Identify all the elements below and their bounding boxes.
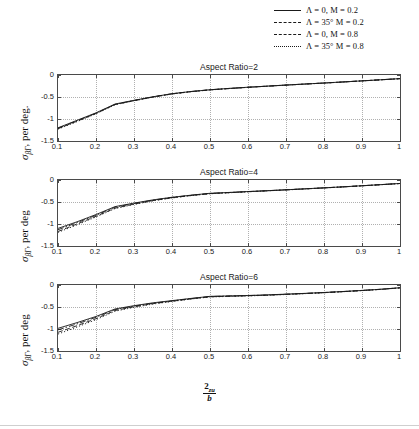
x-axis-label: 2zu b — [0, 382, 419, 403]
x-axis-tick-label: 1 — [397, 142, 401, 151]
x-axis-tick-label: 0.4 — [166, 247, 176, 256]
legend-line-sample-dashdot-icon — [272, 29, 302, 39]
legend-entry: Λ = 0, M = 0.2 — [272, 4, 417, 16]
x-axis-tick-label: 0.7 — [280, 142, 290, 151]
y-axis-tick-label: -0.5 — [24, 197, 54, 206]
legend-entry-label: Λ = 35° M = 0.8 — [302, 41, 364, 51]
x-axis-tick-label: 0.8 — [318, 247, 328, 256]
subplot-title: Aspect Ratio=4 — [57, 167, 401, 177]
x-axis-tick-label: 1 — [397, 247, 401, 256]
x-axis-tick-label: 1 — [397, 352, 401, 361]
x-axis-tick-label: 0.9 — [356, 142, 366, 151]
y-axis-tick-label: -1.5 — [24, 136, 54, 145]
y-axis-tick-label: 0 — [24, 175, 54, 184]
x-axis-tick — [400, 243, 401, 246]
x-axis-tick-top — [400, 180, 401, 183]
y-axis-tick-label: -1.5 — [24, 346, 54, 355]
data-series-line — [58, 183, 400, 228]
y-axis-tick-label: -0.5 — [24, 302, 54, 311]
x-axis-tick-label: 0.2 — [90, 142, 100, 151]
data-series-line — [58, 79, 400, 129]
subplot-title: Aspect Ratio=2 — [57, 62, 401, 72]
data-series-line — [58, 183, 400, 229]
x-axis-tick-label: 0.4 — [166, 142, 176, 151]
data-series-line — [58, 288, 400, 330]
x-axis-tick-label: 0.3 — [128, 142, 138, 151]
data-series-line — [58, 184, 400, 233]
data-series-line — [58, 288, 400, 329]
x-axis-tick-label: 0.9 — [356, 352, 366, 361]
y-axis-tick-label: -1 — [24, 324, 54, 333]
x-axis-tick-label: 0.9 — [356, 247, 366, 256]
x-axis-tick-label: 0.3 — [128, 352, 138, 361]
data-series-line — [58, 79, 400, 129]
y-axis-tick-label: -1 — [24, 219, 54, 228]
data-series-line — [58, 79, 400, 128]
legend-entry: Λ = 35° M = 0.2 — [272, 16, 417, 28]
figure-canvas: Λ = 0, M = 0.2 Λ = 35° M = 0.2 Λ = 0, M … — [0, 0, 419, 429]
grid-line-vertical — [400, 75, 401, 141]
x-axis-tick — [400, 348, 401, 351]
x-axis-tick-label: 0.5 — [204, 352, 214, 361]
y-axis-tick-label: -0.5 — [24, 92, 54, 101]
x-axis-tick-label: 0.6 — [242, 352, 252, 361]
x-axis-label-denominator: b — [203, 394, 216, 403]
x-axis-tick-label: 0.5 — [204, 247, 214, 256]
grid-line-vertical — [400, 180, 401, 246]
y-axis-label: σβΓ, per deg — [18, 314, 33, 366]
data-series-line — [58, 79, 400, 129]
grid-line-vertical — [400, 285, 401, 351]
plot-area — [57, 179, 401, 247]
x-axis-tick-label: 0.6 — [242, 247, 252, 256]
legend: Λ = 0, M = 0.2 Λ = 35° M = 0.2 Λ = 0, M … — [272, 4, 417, 56]
x-axis-tick-label: 0.3 — [128, 247, 138, 256]
legend-entry-label: Λ = 0, M = 0.8 — [302, 29, 358, 39]
x-axis-tick — [400, 138, 401, 141]
x-axis-tick-label: 0.7 — [280, 247, 290, 256]
x-axis-tick-label: 0.6 — [242, 142, 252, 151]
x-axis-tick-label: 0.2 — [90, 352, 100, 361]
x-axis-tick-label: 0.8 — [318, 142, 328, 151]
x-axis-tick-label: 0.8 — [318, 352, 328, 361]
series-layer — [58, 285, 400, 351]
legend-entry-label: Λ = 0, M = 0.2 — [302, 5, 358, 15]
footer-divider — [0, 425, 419, 426]
legend-entry: Λ = 0, M = 0.8 — [272, 28, 417, 40]
legend-entry-label: Λ = 35° M = 0.2 — [302, 17, 364, 27]
subplot-title: Aspect Ratio=6 — [57, 272, 401, 282]
y-axis-tick-label: -1 — [24, 114, 54, 123]
series-layer — [58, 180, 400, 246]
legend-line-sample-dashed-icon — [272, 17, 302, 27]
legend-entry: Λ = 35° M = 0.8 — [272, 40, 417, 52]
x-axis-tick-label: 0.2 — [90, 247, 100, 256]
series-layer — [58, 75, 400, 141]
y-axis-tick-label: 0 — [24, 280, 54, 289]
data-series-line — [58, 288, 400, 332]
x-axis-tick-label: 0.4 — [166, 352, 176, 361]
x-axis-tick-top — [400, 75, 401, 78]
plot-area — [57, 74, 401, 142]
legend-line-sample-dotted-icon — [272, 41, 302, 51]
x-axis-tick-top — [400, 285, 401, 288]
plot-area — [57, 284, 401, 352]
x-axis-tick-label: 0.7 — [280, 352, 290, 361]
y-axis-tick-label: -1.5 — [24, 241, 54, 250]
data-series-line — [58, 184, 400, 232]
x-axis-tick-label: 0.5 — [204, 142, 214, 151]
legend-line-sample-solid-icon — [272, 5, 302, 15]
y-axis-tick-label: 0 — [24, 70, 54, 79]
